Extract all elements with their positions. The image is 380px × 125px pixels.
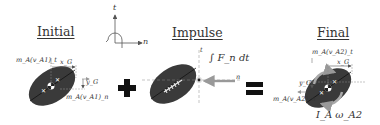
final-football: ✕ ✕ (298, 58, 365, 116)
initial-title: Initial (37, 24, 74, 39)
plus-operator (118, 79, 136, 97)
svg-text:✕: ✕ (319, 89, 324, 96)
initial-momentum-t-label: m_A(v_A1)_t (16, 56, 57, 64)
final-momentum-n-label: m_A(v_A2)_n (273, 95, 315, 103)
n-axis-label: n (143, 37, 148, 46)
impulse-momentum-diagram: ✕ ✕ (0, 0, 380, 125)
t-axis-label: t (113, 3, 116, 12)
impulse-n-label: n (236, 73, 240, 81)
svg-text:✕: ✕ (41, 87, 46, 94)
final-yg-label: y_G (299, 79, 311, 87)
impulse-integral-label: ∫ F_n dt (209, 52, 249, 63)
final-momentum-t-label: m_A(v_A2)_t (312, 48, 353, 56)
equals-operator (246, 82, 263, 95)
coordinate-axes (106, 15, 142, 48)
svg-text:✕: ✕ (55, 76, 60, 83)
initial-xg-label: x_G (60, 58, 72, 66)
final-xg-label: x_G (337, 58, 349, 66)
initial-yg-label: y_G (86, 78, 98, 86)
final-angular-momentum-label: I_A ω_A2 (316, 109, 362, 120)
svg-text:✕: ✕ (332, 78, 337, 85)
initial-momentum-n-label: m_A(v_A1)_n (66, 93, 108, 101)
impulse-t-label: t (200, 46, 203, 54)
impulse-title: Impulse (172, 25, 223, 40)
final-title: Final (317, 25, 349, 40)
initial-football: ✕ ✕ (22, 58, 89, 114)
